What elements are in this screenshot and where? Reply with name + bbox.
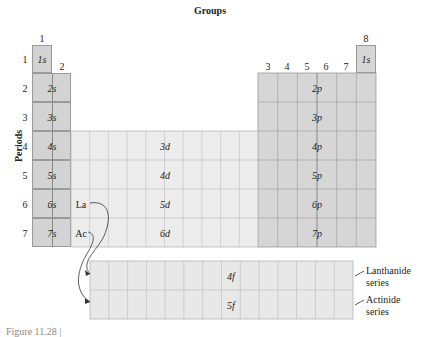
s-label-4s: 4s xyxy=(48,141,57,152)
helium-label-1s: 1s xyxy=(362,54,371,65)
p-label-6p: 6p xyxy=(312,199,322,210)
d-label-4d: 4d xyxy=(160,170,170,181)
actinide-label-line1: Actinide xyxy=(366,294,400,306)
lanthanide-series-label: Lanthanide series xyxy=(366,265,411,289)
p-label-4p: 4p xyxy=(312,141,322,152)
element-la: La xyxy=(76,199,87,210)
s-label-1s: 1s xyxy=(38,54,47,65)
s-label-3s: 3s xyxy=(48,112,57,123)
s-label-5s: 5s xyxy=(48,170,57,181)
actinide-label-line2: series xyxy=(366,306,400,318)
figure-caption: Figure 11.28 | xyxy=(6,327,61,337)
s-label-6s: 6s xyxy=(48,199,57,210)
p-label-2p: 2p xyxy=(312,83,322,94)
p-label-5p: 5p xyxy=(312,170,322,181)
lanthanide-label-line2: series xyxy=(366,277,411,289)
d-label-6d: 6d xyxy=(160,228,170,239)
s-label-2s: 2s xyxy=(48,83,57,94)
s-label-7s: 7s xyxy=(48,228,57,239)
p-label-7p: 7p xyxy=(312,228,322,239)
p-label-3p: 3p xyxy=(312,112,322,123)
f-label-4f: 4f xyxy=(227,271,235,282)
lanthanide-label-line1: Lanthanide xyxy=(366,265,411,277)
d-label-5d: 5d xyxy=(160,199,170,210)
d-label-3d: 3d xyxy=(160,141,170,152)
element-ac: Ac xyxy=(75,228,87,239)
actinide-series-label: Actinide series xyxy=(366,294,400,318)
f-label-5f: 5f xyxy=(227,300,235,311)
